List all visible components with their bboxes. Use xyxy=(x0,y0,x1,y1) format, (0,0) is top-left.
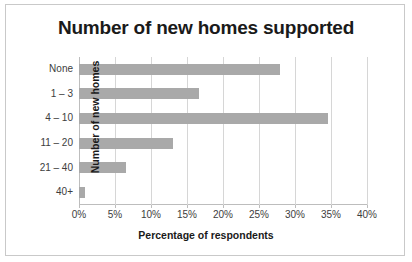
gridline xyxy=(295,57,296,205)
bar-row[interactable] xyxy=(79,156,126,181)
x-axis-tick-mark xyxy=(331,205,332,208)
y-axis-tick-label: 11 – 20 xyxy=(13,131,73,156)
x-axis-tick-mark xyxy=(367,205,368,208)
y-axis-tick-label: None xyxy=(13,57,73,82)
gridline xyxy=(367,57,368,205)
chart-figure: Number of new homes supported None1 – 34… xyxy=(5,4,405,256)
y-axis-tick-label: 40+ xyxy=(13,180,73,205)
y-axis-tick-label: 21 – 40 xyxy=(13,156,73,181)
bar[interactable] xyxy=(79,113,328,124)
x-axis-tick-label: 25% xyxy=(239,209,279,220)
x-axis-tick-label: 30% xyxy=(275,209,315,220)
x-axis-tick-mark xyxy=(259,205,260,208)
x-axis-tick-mark xyxy=(79,205,80,208)
x-axis-tick-mark xyxy=(187,205,188,208)
x-axis-tick-mark xyxy=(223,205,224,208)
x-axis-tick-label: 10% xyxy=(131,209,171,220)
x-axis-tick-label: 0% xyxy=(59,209,99,220)
x-axis-tick-mark xyxy=(115,205,116,208)
bar[interactable] xyxy=(79,162,126,173)
bar[interactable] xyxy=(79,187,85,198)
x-axis-tick-label: 20% xyxy=(203,209,243,220)
y-axis-tick-label: 4 – 10 xyxy=(13,106,73,131)
x-axis-tick-label: 35% xyxy=(311,209,351,220)
chart-title: Number of new homes supported xyxy=(6,17,406,39)
plot-area: None1 – 34 – 1011 – 2021 – 4040+ 0%5%10%… xyxy=(79,57,367,205)
x-axis-tick-mark xyxy=(151,205,152,208)
x-axis-tick-label: 5% xyxy=(95,209,135,220)
gridline xyxy=(331,57,332,205)
bar-row[interactable] xyxy=(79,57,280,82)
x-axis-tick-label: 15% xyxy=(167,209,207,220)
bar-row[interactable] xyxy=(79,106,328,131)
y-axis-tick-label: 1 – 3 xyxy=(13,82,73,107)
y-axis-title: Number of new homes xyxy=(89,43,101,191)
x-axis-tick-mark xyxy=(295,205,296,208)
x-axis-title: Percentage of respondents xyxy=(6,229,406,241)
x-axis-tick-label: 40% xyxy=(347,209,387,220)
bar[interactable] xyxy=(79,64,280,75)
bar-row[interactable] xyxy=(79,180,85,205)
